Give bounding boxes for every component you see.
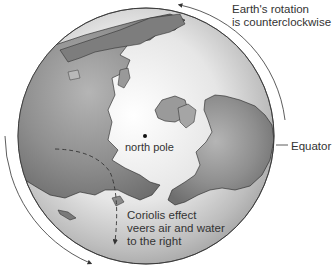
island-5	[68, 70, 80, 80]
rotation-label: Earth's rotation is counterclockwise	[232, 3, 331, 29]
coriolis-label-line2: veers air and water	[127, 222, 225, 235]
equator-label: Equator	[291, 140, 331, 153]
coriolis-label: Coriolis effect veers air and water to t…	[127, 209, 225, 248]
north-pole-label: north pole	[125, 141, 174, 154]
rotation-label-line2: is counterclockwise	[232, 16, 331, 29]
north-pole-dot-icon	[143, 134, 147, 138]
coriolis-label-line1: Coriolis effect	[127, 209, 225, 222]
rotation-label-line1: Earth's rotation	[232, 3, 331, 16]
coriolis-label-line3: to the right	[127, 235, 225, 248]
